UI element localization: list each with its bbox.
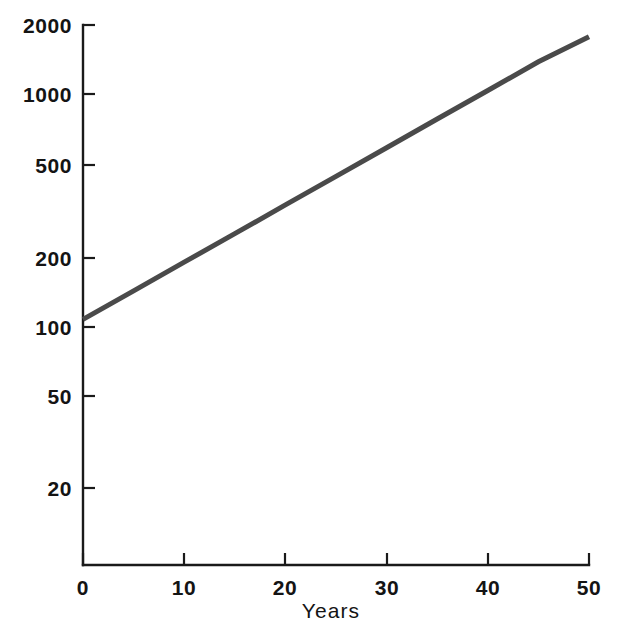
y-tick-label-20: 20	[0, 478, 72, 499]
chart-plot-area	[0, 0, 617, 634]
y-tick-label-50: 50	[0, 386, 72, 407]
x-tick-label-50: 50	[577, 577, 602, 598]
x-axis-title: Years	[302, 599, 360, 623]
chart-container: 2000 1000 500 200 100 50 20 0 10 20 30 4…	[0, 0, 617, 634]
x-tick-label-30: 30	[375, 577, 400, 598]
y-tick-label-100: 100	[0, 317, 72, 338]
y-tick-label-200: 200	[0, 248, 72, 269]
x-tick-label-40: 40	[476, 577, 501, 598]
y-tick-label-2000: 2000	[0, 15, 72, 36]
y-tick-label-1000: 1000	[0, 84, 72, 105]
x-tick-label-10: 10	[172, 577, 197, 598]
y-tick-label-500: 500	[0, 155, 72, 176]
series-line-growth	[83, 37, 589, 320]
x-tick-label-0: 0	[77, 577, 89, 598]
x-tick-label-20: 20	[273, 577, 298, 598]
